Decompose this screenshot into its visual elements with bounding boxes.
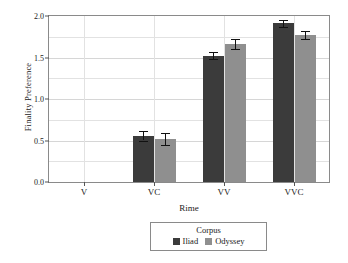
legend-items: IliadOdyssey bbox=[155, 236, 262, 247]
x-tick-mark-1 bbox=[154, 182, 155, 186]
error-cap-lower-vvc-odyssey bbox=[301, 39, 310, 40]
error-bar-vc-iliad bbox=[143, 131, 144, 140]
legend-swatch-iliad-icon bbox=[173, 238, 180, 245]
error-cap-lower-vv-iliad bbox=[209, 59, 218, 60]
bar-vc-iliad bbox=[133, 136, 154, 182]
error-cap-lower-vvc-iliad bbox=[279, 27, 288, 28]
legend: Corpus IliadOdyssey bbox=[150, 222, 267, 251]
y-tick-label-2: 1.0 bbox=[34, 95, 49, 104]
bar-vvc-odyssey bbox=[295, 35, 316, 182]
x-tick-label-vc: VC bbox=[148, 187, 161, 197]
bar-vv-iliad bbox=[203, 56, 224, 182]
y-tick-label-0: 0.0 bbox=[34, 178, 49, 187]
bar-vv-odyssey bbox=[225, 44, 246, 182]
error-cap-upper-vvc-iliad bbox=[279, 20, 288, 21]
plot-inner: 0.00.51.01.52.0 bbox=[49, 16, 329, 182]
legend-item-odyssey[interactable]: Odyssey bbox=[205, 236, 244, 247]
legend-item-iliad[interactable]: Iliad bbox=[173, 236, 199, 247]
error-cap-lower-vv-odyssey bbox=[231, 49, 240, 50]
x-tick-mark-0 bbox=[84, 182, 85, 186]
error-bar-vvc-odyssey bbox=[305, 31, 306, 39]
error-cap-upper-vc-odyssey bbox=[161, 133, 170, 134]
error-cap-upper-vc-iliad bbox=[139, 131, 148, 132]
x-axis-title: Rime bbox=[48, 203, 330, 213]
y-tick-label-3: 1.5 bbox=[34, 53, 49, 62]
plot-area: 0.00.51.01.52.0 bbox=[48, 15, 330, 183]
legend-swatch-odyssey-icon bbox=[205, 238, 212, 245]
bar-chart-figure: Finality Preference 0.00.51.01.52.0 Rime… bbox=[0, 0, 348, 263]
bar-vvc-iliad bbox=[273, 23, 294, 182]
x-tick-label-v: V bbox=[81, 187, 88, 197]
legend-label-odyssey: Odyssey bbox=[215, 236, 244, 247]
x-tick-label-vv: VV bbox=[218, 187, 231, 197]
y-tick-label-4: 2.0 bbox=[34, 12, 49, 21]
legend-label-iliad: Iliad bbox=[183, 236, 199, 247]
error-bar-vv-odyssey bbox=[235, 39, 236, 49]
error-bar-vc-odyssey bbox=[165, 133, 166, 145]
y-axis-title: Finality Preference bbox=[23, 22, 33, 172]
x-tick-mark-2 bbox=[224, 182, 225, 186]
error-cap-upper-vv-odyssey bbox=[231, 39, 240, 40]
x-tick-mark-3 bbox=[294, 182, 295, 186]
x-tick-label-vvc: VVC bbox=[284, 187, 303, 197]
error-cap-lower-vc-iliad bbox=[139, 141, 148, 142]
error-cap-upper-vv-iliad bbox=[209, 52, 218, 53]
error-bar-vv-iliad bbox=[213, 52, 214, 59]
gridline-vertical-0 bbox=[84, 16, 85, 182]
error-cap-upper-vvc-odyssey bbox=[301, 31, 310, 32]
y-tick-label-1: 0.5 bbox=[34, 136, 49, 145]
legend-title: Corpus bbox=[155, 225, 262, 236]
error-cap-lower-vc-odyssey bbox=[161, 145, 170, 146]
